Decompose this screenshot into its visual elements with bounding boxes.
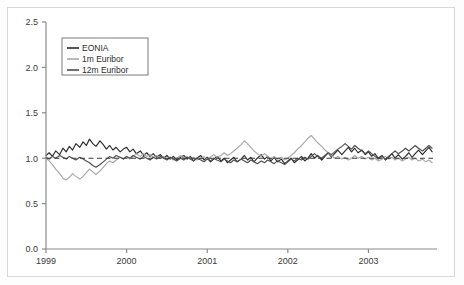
- y-axis-tick-labels: 0.00.51.01.52.02.5: [25, 17, 46, 254]
- y-tick-label: 2.5: [25, 17, 38, 27]
- x-tick-label: 2003: [358, 256, 378, 266]
- series-line-12m-euribor: [46, 144, 432, 168]
- y-tick-label: 1.5: [25, 108, 38, 118]
- x-tick-label: 2001: [197, 256, 217, 266]
- y-tick-label: 1.0: [25, 154, 38, 164]
- legend-label-12m-euribor: 12m Euribor: [82, 65, 128, 75]
- plot-series-group: [46, 136, 432, 180]
- screenshot-page: 19992000200120022003 0.00.51.01.52.02.5 …: [0, 0, 464, 285]
- x-tick-label: 1999: [36, 256, 56, 266]
- legend-label-eonia: EONIA: [82, 43, 109, 53]
- series-line-1m-euribor: [46, 136, 432, 180]
- line-chart: 19992000200120022003 0.00.51.01.52.02.5 …: [0, 0, 464, 285]
- x-tick-label: 2000: [117, 256, 137, 266]
- y-tick-label: 0.0: [25, 244, 38, 254]
- legend-label-1m-euribor: 1m Euribor: [82, 54, 124, 64]
- x-axis-tick-labels: 19992000200120022003: [36, 249, 379, 266]
- x-tick-label: 2002: [278, 256, 298, 266]
- y-tick-label: 2.0: [25, 63, 38, 73]
- chart-legend: EONIA1m Euribor12m Euribor: [62, 38, 148, 75]
- y-tick-label: 0.5: [25, 199, 38, 209]
- chart-figure: 19992000200120022003 0.00.51.01.52.02.5 …: [0, 0, 464, 285]
